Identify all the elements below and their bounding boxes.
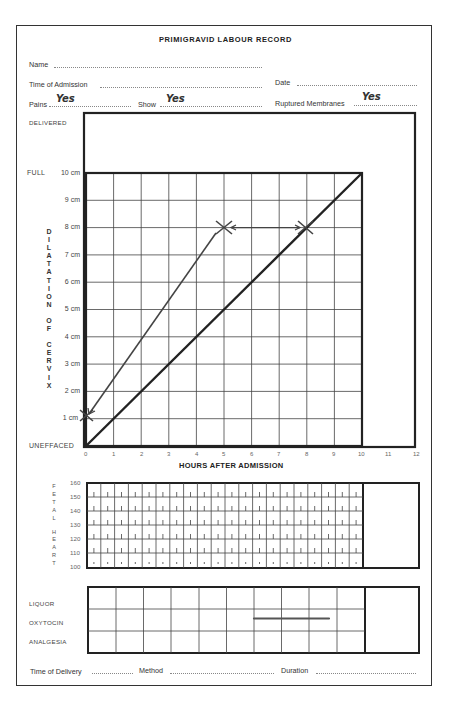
fhr-tick-110: 110	[70, 549, 80, 556]
fetal-heart-grid	[87, 483, 363, 568]
x-tick-8: 8	[305, 451, 308, 457]
fhr-tick-160: 160	[70, 479, 80, 486]
y-axis-vertical-label: D I L A T A T I O N O F C E R V I X	[44, 228, 54, 390]
method-field[interactable]	[170, 673, 274, 674]
x-tick-1: 1	[112, 451, 115, 457]
y-tick-1: 1 cm	[44, 414, 78, 421]
x-tick-2: 2	[140, 451, 143, 457]
chart-graphics	[0, 0, 451, 708]
time-of-delivery-label: Time of Delivery	[30, 667, 82, 676]
x-tick-9: 9	[332, 451, 335, 457]
x-tick-5: 5	[222, 451, 225, 457]
observed-line	[89, 233, 216, 414]
duration-field[interactable]	[316, 673, 416, 674]
fhr-tick-140: 140	[70, 507, 80, 514]
x-axis-label: HOURS AFTER ADMISSION	[179, 461, 284, 470]
fhr-tick-130: 130	[70, 521, 80, 528]
time-of-delivery-field[interactable]	[92, 673, 133, 674]
fhr-tick-100: 100	[70, 563, 80, 570]
analgesia-label: ANALGESIA	[29, 638, 67, 645]
x-tick-12: 12	[413, 451, 420, 457]
delivered-box	[84, 113, 415, 447]
x-tick-4: 4	[195, 451, 198, 457]
x-tick-10: 10	[358, 451, 365, 457]
fhr-tick-150: 150	[70, 493, 80, 500]
x-tick-3: 3	[167, 451, 170, 457]
fetal-heart-vertical-label: F E T A L H E A R T	[50, 483, 58, 568]
oxytocin-label: OXYTOCIN	[29, 619, 64, 626]
duration-label: Duration	[281, 666, 308, 675]
x-tick-6: 6	[250, 451, 253, 457]
x-tick-0: 0	[84, 451, 87, 457]
method-label: Method	[139, 666, 163, 675]
uneffaced-label: UNEFFACED	[29, 442, 74, 449]
medication-box	[88, 587, 419, 653]
x-tick-7: 7	[277, 451, 280, 457]
x-tick-11: 11	[385, 451, 391, 457]
y-tick-9: 9 cm	[46, 196, 80, 203]
y-tick-10: 10 cm	[46, 169, 80, 176]
full-label: FULL	[27, 169, 45, 176]
liquor-label: LIQUOR	[29, 600, 55, 607]
fhr-tick-120: 120	[70, 535, 80, 542]
medication-grid	[88, 587, 365, 653]
